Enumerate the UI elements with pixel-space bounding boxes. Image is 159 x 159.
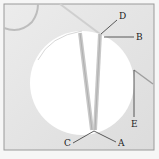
label-e: E (131, 119, 138, 129)
label-c: C (64, 138, 71, 148)
label-b: B (136, 32, 143, 42)
label-d: D (119, 11, 126, 21)
label-a: A (117, 138, 125, 148)
thread-disk-diagram: D B E A C (0, 0, 159, 159)
